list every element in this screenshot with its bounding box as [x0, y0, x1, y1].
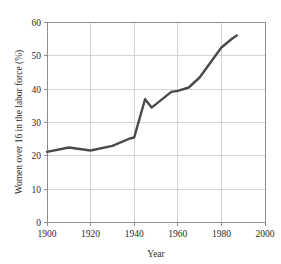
x-tick-label-1960: 1960	[168, 229, 187, 239]
labor-force-line-chart: 190019201940196019802000 0102030405060 Y…	[0, 0, 281, 264]
y-tick-label-20: 20	[32, 151, 42, 161]
y-tick-label-50: 50	[32, 51, 42, 61]
x-tick-label-1900: 1900	[38, 229, 57, 239]
y-tick-label-60: 60	[32, 18, 42, 28]
chart-figure: 190019201940196019802000 0102030405060 Y…	[0, 0, 281, 264]
y-tick-label-0: 0	[36, 218, 41, 228]
chart-background	[0, 0, 281, 264]
y-tick-label-30: 30	[32, 118, 42, 128]
y-tick-label-10: 10	[32, 185, 42, 195]
x-tick-label-2000: 2000	[256, 229, 275, 239]
y-axis-title: Women over 16 in the labor force (%)	[14, 50, 25, 195]
x-tick-label-1980: 1980	[212, 229, 231, 239]
y-tick-label-40: 40	[32, 85, 42, 95]
x-tick-label-1920: 1920	[81, 229, 100, 239]
x-tick-label-1940: 1940	[125, 229, 144, 239]
x-axis-title: Year	[147, 249, 165, 259]
